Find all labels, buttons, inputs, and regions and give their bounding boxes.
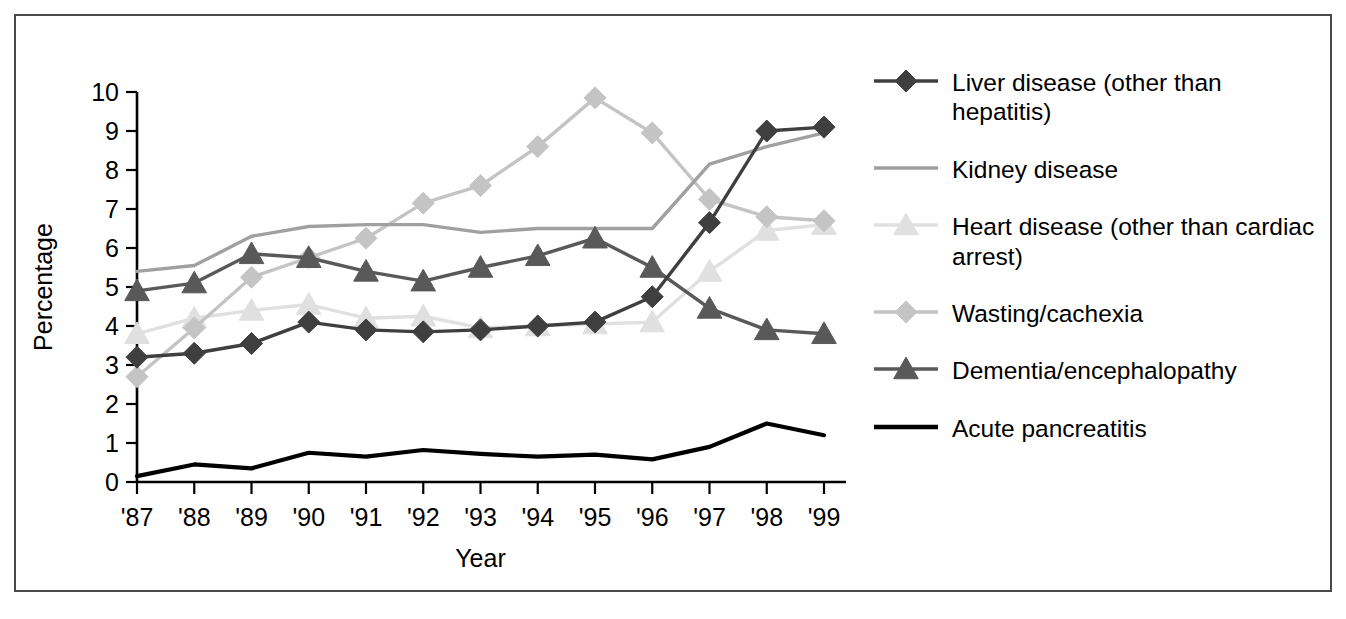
legend-marker-icon	[872, 210, 940, 240]
legend-entry[interactable]: Kidney disease	[872, 153, 1322, 184]
y-axis-title: Percentage	[29, 223, 57, 351]
legend-marker-icon	[872, 153, 940, 183]
x-tick-label: '95	[579, 503, 612, 531]
legend-entry[interactable]: Liver disease (other than hepatitis)	[872, 66, 1322, 127]
x-tick-label: '91	[350, 503, 383, 531]
x-tick-label: '99	[808, 503, 841, 531]
y-tick-label: 1	[105, 429, 119, 457]
y-tick-label: 0	[105, 468, 119, 496]
data-point-marker	[756, 120, 778, 142]
y-tick-label: 3	[105, 351, 119, 379]
x-tick-label: '87	[121, 503, 154, 531]
legend-label: Liver disease (other than hepatitis)	[952, 66, 1322, 127]
data-point-marker	[470, 175, 492, 197]
data-point-marker	[183, 342, 205, 364]
series-wasting-cachexia	[126, 87, 835, 388]
y-tick-label: 10	[91, 78, 119, 106]
x-tick-label: '97	[693, 503, 726, 531]
legend-marker-icon	[872, 297, 940, 327]
x-tick-label: '89	[235, 503, 268, 531]
x-tick-label: '92	[407, 503, 440, 531]
y-tick-label: 7	[105, 195, 119, 223]
chart-legend: Liver disease (other than hepatitis)Kidn…	[872, 66, 1322, 469]
x-tick-label: '94	[521, 503, 554, 531]
data-series	[125, 87, 837, 476]
y-tick-label: 8	[105, 156, 119, 184]
figure-container: 012345678910'87'88'89'90'91'92'93'94'95'…	[0, 0, 1346, 619]
legend-marker-icon	[872, 66, 940, 96]
x-axis-title: Year	[455, 544, 506, 572]
series-acute-pancreatitis	[137, 424, 824, 477]
series-liver-disease-other-than-hepatitis	[126, 116, 835, 368]
x-tick-label: '88	[178, 503, 211, 531]
y-tick-label: 2	[105, 390, 119, 418]
data-point-marker	[182, 271, 207, 293]
legend-label: Kidney disease	[952, 153, 1118, 184]
legend-label: Wasting/cachexia	[952, 297, 1143, 328]
data-point-marker	[640, 256, 665, 278]
legend-label: Dementia/encephalopathy	[952, 354, 1237, 385]
data-point-marker	[697, 260, 722, 282]
y-tick-label: 4	[105, 312, 119, 340]
legend-label: Heart disease (other than cardiac arrest…	[952, 210, 1322, 271]
legend-entry[interactable]: Heart disease (other than cardiac arrest…	[872, 210, 1322, 271]
data-point-marker	[355, 227, 377, 249]
y-tick-label: 9	[105, 117, 119, 145]
legend-entry[interactable]: Acute pancreatitis	[872, 412, 1322, 443]
series-line	[137, 424, 824, 477]
legend-marker-icon	[872, 412, 940, 442]
legend-entry[interactable]: Wasting/cachexia	[872, 297, 1322, 328]
x-tick-label: '93	[464, 503, 497, 531]
data-point-marker	[697, 297, 722, 319]
data-point-marker	[756, 206, 778, 228]
legend-marker-icon	[872, 354, 940, 384]
x-tick-label: '90	[292, 503, 325, 531]
data-point-marker	[241, 333, 263, 355]
legend-entry[interactable]: Dementia/encephalopathy	[872, 354, 1322, 385]
x-tick-label: '96	[636, 503, 669, 531]
y-tick-label: 5	[105, 273, 119, 301]
data-point-marker	[412, 192, 434, 214]
legend-label: Acute pancreatitis	[952, 412, 1147, 443]
y-tick-label: 6	[105, 234, 119, 262]
x-tick-label: '98	[750, 503, 783, 531]
